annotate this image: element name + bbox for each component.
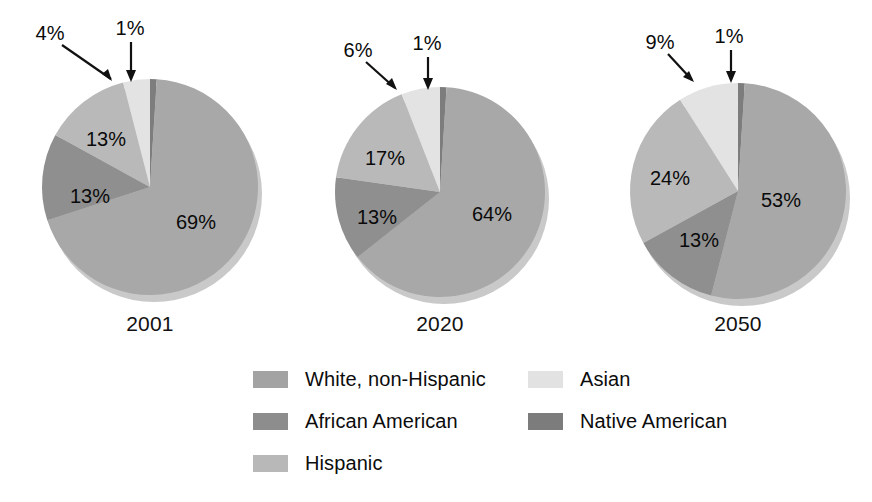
slice-percent-label: 69% (176, 211, 216, 234)
callout-percent-label: 9% (646, 31, 675, 54)
legend-column-left: White, non-HispanicAfrican AmericanHispa… (253, 358, 486, 484)
legend: White, non-HispanicAfrican AmericanHispa… (250, 358, 872, 502)
pie-svg-2001 (0, 0, 300, 320)
legend-swatch-white-non-hispanic (253, 371, 288, 388)
slice-percent-label: 13% (357, 206, 397, 229)
legend-swatch-african-american (253, 413, 288, 430)
slice-percent-label: 13% (70, 185, 110, 208)
pie-chart-2050: 2050 (588, 0, 872, 350)
year-label-2050: 2050 (588, 312, 872, 336)
year-label-2020: 2020 (290, 312, 590, 336)
legend-item-label: Native American (580, 410, 727, 433)
slice-percent-label: 64% (472, 203, 512, 226)
legend-item-label: African American (305, 410, 458, 433)
slice-percent-label: 24% (650, 167, 690, 190)
legend-item[interactable]: African American (253, 400, 486, 442)
slice-percent-label: 13% (679, 229, 719, 252)
callout-percent-label: 1% (116, 17, 145, 40)
slice-percent-label: 53% (761, 189, 801, 212)
legend-item-label: Hispanic (305, 452, 383, 475)
legend-item[interactable]: Native American (528, 400, 727, 442)
pie-graphic-2001 (0, 0, 300, 320)
callout-percent-label: 4% (36, 22, 65, 45)
legend-item[interactable]: White, non-Hispanic (253, 358, 486, 400)
legend-item[interactable]: Asian (528, 358, 727, 400)
callout-percent-label: 1% (413, 32, 442, 55)
pie-chart-2001: 2001 (0, 0, 300, 350)
pie-chart-figure: 2001 2020 2050 69%13%13%4%1%64%13%17%6%1… (0, 0, 872, 502)
pie-svg-2050 (588, 0, 872, 320)
slice-percent-label: 13% (86, 128, 126, 151)
legend-column-right: AsianNative American (528, 358, 727, 442)
legend-item-label: Asian (580, 368, 631, 391)
callout-percent-label: 6% (344, 39, 373, 62)
callout-percent-label: 1% (715, 25, 744, 48)
year-label-2001: 2001 (0, 312, 300, 336)
legend-swatch-native-american (528, 413, 563, 430)
pie-graphic-2050 (588, 0, 872, 320)
legend-swatch-hispanic (253, 455, 288, 472)
legend-swatch-asian (528, 371, 563, 388)
slice-percent-label: 17% (365, 147, 405, 170)
legend-item[interactable]: Hispanic (253, 442, 486, 484)
legend-item-label: White, non-Hispanic (305, 368, 486, 391)
